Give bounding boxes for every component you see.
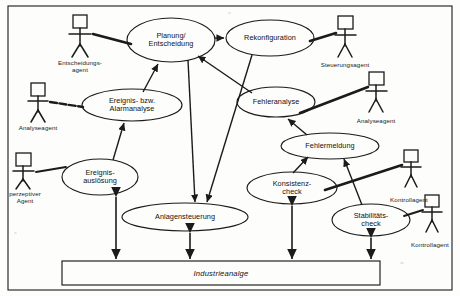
use-case-label-fehleranalyse: Fehleranalyse [253,98,299,106]
use-case-label-stabilitaetscheck: Stabilitäts- check [354,212,389,229]
use-case-label-fehlermeldung: Fehlermeldung [305,142,354,150]
assoc-analyseagent-fehleranalyse [300,87,368,113]
use-case-label-ausloesung: Ereignis- auslösung [83,169,117,186]
actor-analyseagent-right[interactable] [366,72,387,112]
use-case-label-anlagensteuerung: Anlagensteuerung [155,213,215,221]
actor-analyseagent-left[interactable] [28,83,48,122]
arrow-ausloesung-to-alarmanalyse [113,123,124,160]
assoc-perzeptiver-ausloesung [36,167,66,172]
diagram-frame [8,6,452,290]
assoc-entscheidungsagent-planung [93,34,131,44]
actor-kontrollagent-lower[interactable] [422,195,442,232]
use-case-label-rekonfiguration: Rekonfiguration [244,34,296,42]
arrow-planung-to-anlagensteuerung [188,60,195,202]
actor-kontrollagent-upper[interactable] [401,150,421,187]
assoc-analyseagent-alarmanalyse [50,102,83,107]
system-box-label: Industrieanalge [194,269,249,278]
diagram-canvas [0,0,460,296]
arrow-fehlermeldung-to-fehleranalyse [288,119,307,135]
actor-figures [13,15,442,232]
use-case-ellipses [62,18,410,236]
scan-speck [228,12,231,14]
scan-speck [14,232,17,234]
arrow-fehleranalyse-to-planung [198,56,252,93]
actor-steuerungsagent[interactable] [335,16,356,57]
system-box-arrows [116,197,371,259]
scan-speck [400,262,404,264]
relationship-arrows [113,38,362,205]
use-case-label-konsistenzcheck: Konsistenz- check [273,180,312,197]
actor-entscheidungsagent[interactable] [69,15,91,57]
assoc-kontrollagent-konsistenz [325,165,402,190]
actor-perzeptiver-agent[interactable] [13,153,34,189]
use-case-label-alarmanalyse: Ereignis- bzw. Alarmanalyse [109,97,155,114]
arrow-konsistenz-to-fehlermeldung [293,157,308,173]
actor-associations [36,33,423,216]
usecase-diagram-page: Planung/ Entscheidung Rekonfiguration Er… [0,0,460,296]
use-case-label-planung: Planung/ Entscheidung [149,32,194,49]
arrow-alarmanalyse-to-planung [143,64,158,92]
